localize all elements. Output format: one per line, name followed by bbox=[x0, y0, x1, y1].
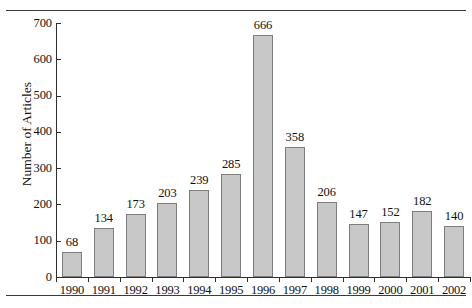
bar-value-label: 239 bbox=[175, 174, 223, 187]
x-axis-tick bbox=[120, 277, 121, 282]
bar bbox=[380, 222, 400, 277]
y-axis-tick-label: 700 bbox=[14, 17, 52, 30]
x-axis-tick bbox=[279, 277, 280, 282]
bar-value-label: 68 bbox=[48, 236, 96, 249]
y-axis-tick-label: 0 bbox=[14, 271, 52, 284]
figure-container: Number of Articles 010020030040050060070… bbox=[0, 0, 472, 308]
y-axis-tick bbox=[56, 204, 61, 205]
y-axis-tick-label: 200 bbox=[14, 198, 52, 211]
x-axis-tick bbox=[183, 277, 184, 282]
bar bbox=[157, 203, 177, 277]
y-axis-tick bbox=[56, 96, 61, 97]
bar-value-label: 285 bbox=[207, 158, 255, 171]
y-axis-tick-label-text: 200 bbox=[18, 198, 52, 211]
bar bbox=[349, 224, 369, 277]
y-axis-tick-label-text: 700 bbox=[18, 17, 52, 30]
bar bbox=[285, 147, 305, 277]
bar-chart-plot: Number of Articles 010020030040050060070… bbox=[0, 0, 472, 308]
bar-value-label: 182 bbox=[398, 195, 446, 208]
x-axis-tick bbox=[311, 277, 312, 282]
y-axis-tick-label-text: 300 bbox=[18, 162, 52, 175]
bar bbox=[126, 214, 146, 277]
bar-value-label: 140 bbox=[430, 210, 472, 223]
x-axis-tick bbox=[215, 277, 216, 282]
x-axis-tick bbox=[438, 277, 439, 282]
y-axis-tick-label: 300 bbox=[14, 162, 52, 175]
y-axis-tick-label: 100 bbox=[14, 234, 52, 247]
bar bbox=[253, 35, 273, 277]
y-axis-tick-label: 600 bbox=[14, 53, 52, 66]
bar-value-label: 134 bbox=[80, 212, 128, 225]
x-axis-tick bbox=[470, 277, 471, 282]
bar bbox=[62, 252, 82, 277]
y-axis-tick bbox=[56, 132, 61, 133]
x-axis-tick bbox=[88, 277, 89, 282]
y-axis-tick-label: 400 bbox=[14, 125, 52, 138]
bar bbox=[94, 228, 114, 277]
bar bbox=[221, 174, 241, 277]
x-axis-tick bbox=[343, 277, 344, 282]
y-axis-tick bbox=[56, 59, 61, 60]
y-axis-tick-label-text: 100 bbox=[18, 234, 52, 247]
bar-value-label: 206 bbox=[303, 186, 351, 199]
y-axis-tick-label-text: 500 bbox=[18, 89, 52, 102]
y-axis-tick-label-text: 0 bbox=[18, 271, 52, 284]
y-axis-tick-label-text: 400 bbox=[18, 125, 52, 138]
y-axis-tick-label-text: 600 bbox=[18, 53, 52, 66]
x-axis-tick bbox=[247, 277, 248, 282]
bar-value-label: 666 bbox=[239, 19, 287, 32]
x-axis-tick bbox=[374, 277, 375, 282]
x-axis-line bbox=[56, 277, 470, 278]
y-axis-tick-label: 500 bbox=[14, 89, 52, 102]
x-axis-tick bbox=[406, 277, 407, 282]
bar-value-label: 358 bbox=[271, 131, 319, 144]
bar-value-label: 203 bbox=[143, 187, 191, 200]
bar bbox=[444, 226, 464, 277]
bar bbox=[189, 190, 209, 277]
x-axis-tick bbox=[152, 277, 153, 282]
x-axis-tick bbox=[56, 277, 57, 282]
y-axis-tick bbox=[56, 168, 61, 169]
x-axis-tick-label: 2002 bbox=[430, 283, 472, 297]
y-axis-tick bbox=[56, 23, 61, 24]
